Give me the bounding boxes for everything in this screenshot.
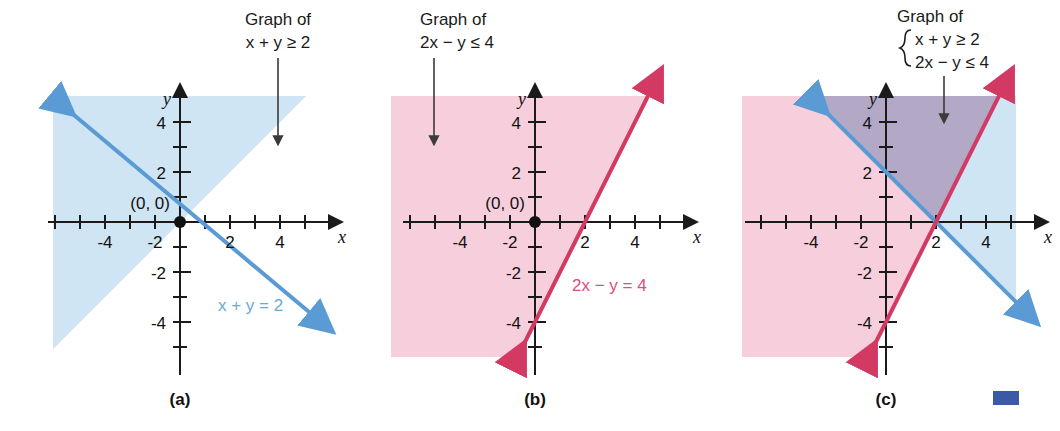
panel-a-ytick--4: -4: [151, 314, 166, 333]
panel-b-ytick--4: -4: [506, 314, 521, 333]
panel-b-annotation-line1: Graph of: [420, 10, 486, 29]
panel-b-y-axis-label: y: [516, 89, 526, 109]
panel-b-origin-label: (0, 0): [485, 194, 525, 213]
panel-b-xtick--4: -4: [452, 233, 467, 252]
panel-a-origin-label: (0, 0): [130, 194, 170, 213]
panel-a-origin-point: [174, 216, 186, 228]
panel-b-equation-label: 2x − y = 4: [572, 276, 647, 295]
panel-c-annotation-line3: 2x − y ≤ 4: [915, 53, 989, 72]
panel-a-xtick--2: -2: [147, 233, 162, 252]
panel-a-xtick--4: -4: [97, 233, 112, 252]
panel-b-x-axis-label: x: [692, 227, 701, 247]
panel-a-ytick-2: 2: [157, 164, 166, 183]
panel-b-xtick--2: -2: [502, 233, 517, 252]
panel-c-x-axis-label: x: [1043, 227, 1052, 247]
panel-c-ytick-4: 4: [863, 114, 872, 133]
panel-b-xtick-2: 2: [580, 233, 589, 252]
panel-a: -4 -2 2 4 4 2 -2 -4 x y (0, 0) x + y = 2…: [48, 2, 360, 409]
panel-a-xtick-2: 2: [225, 233, 234, 252]
panel-a-x-axis-label: x: [337, 227, 346, 247]
panel-c-annotation-line1: Graph of: [897, 7, 963, 26]
panel-a-xtick-4: 4: [275, 233, 284, 252]
figure-container: -4 -2 2 4 4 2 -2 -4 x y (0, 0) x + y = 2…: [0, 0, 1060, 431]
panel-a-y-axis-label: y: [161, 89, 171, 109]
panel-c-xtick--2: -2: [853, 233, 868, 252]
panel-c-xtick-4: 4: [981, 233, 990, 252]
marker-box: [993, 391, 1019, 405]
panel-c: -4 -2 2 4 4 2 -2 -4 x y Graph of x + y ≥…: [742, 7, 1052, 409]
panel-c-annotation-line2: x + y ≥ 2: [915, 30, 980, 49]
panel-c-y-axis-label: y: [867, 89, 877, 109]
panel-c-system-brace: [900, 30, 911, 66]
panel-a-annotation-line2: x + y ≥ 2: [246, 33, 311, 52]
panel-b-ytick-2: 2: [512, 164, 521, 183]
panel-b-ytick-4: 4: [512, 114, 521, 133]
panel-c-ytick--4: -4: [857, 314, 872, 333]
panel-c-ytick-2: 2: [863, 164, 872, 183]
panel-c-ytick--2: -2: [857, 264, 872, 283]
panel-c-caption: (c): [876, 390, 897, 409]
panel-c-xtick-2: 2: [931, 233, 940, 252]
panel-b-xtick-4: 4: [630, 233, 639, 252]
panel-a-ytick--2: -2: [151, 264, 166, 283]
panel-a-annotation-line1: Graph of: [245, 10, 311, 29]
panel-b-ytick--2: -2: [506, 264, 521, 283]
panel-a-ytick-4: 4: [157, 114, 166, 133]
panel-c-xtick--4: -4: [803, 233, 818, 252]
panel-a-equation-label: x + y = 2: [218, 296, 283, 315]
panel-b-origin-point: [529, 216, 541, 228]
panel-b-caption: (b): [524, 390, 546, 409]
panel-b: -4 -2 2 4 4 2 -2 -4 x y (0, 0) 2x − y = …: [391, 10, 701, 409]
panel-a-caption: (a): [170, 390, 191, 409]
panel-b-annotation-line2: 2x − y ≤ 4: [420, 33, 494, 52]
